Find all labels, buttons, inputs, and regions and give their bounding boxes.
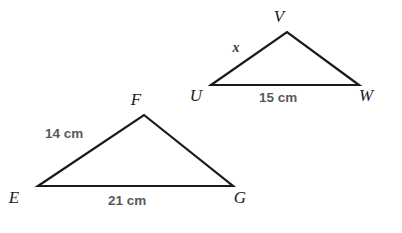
vertex-label-u: U [190,86,204,105]
vertex-label-g: G [234,188,246,207]
geometry-figure: E F G 14 cm 21 cm U V W x 15 cm [0,0,402,233]
side-length-ef: 14 cm [45,126,83,141]
vertex-label-w: W [359,86,375,105]
side-length-eg: 21 cm [108,193,146,208]
side-length-uv-unknown: x [232,40,240,55]
vertex-label-v: V [274,7,287,26]
vertex-label-e: E [8,188,20,207]
vertex-label-f: F [130,90,142,109]
side-length-uw: 15 cm [259,90,297,105]
